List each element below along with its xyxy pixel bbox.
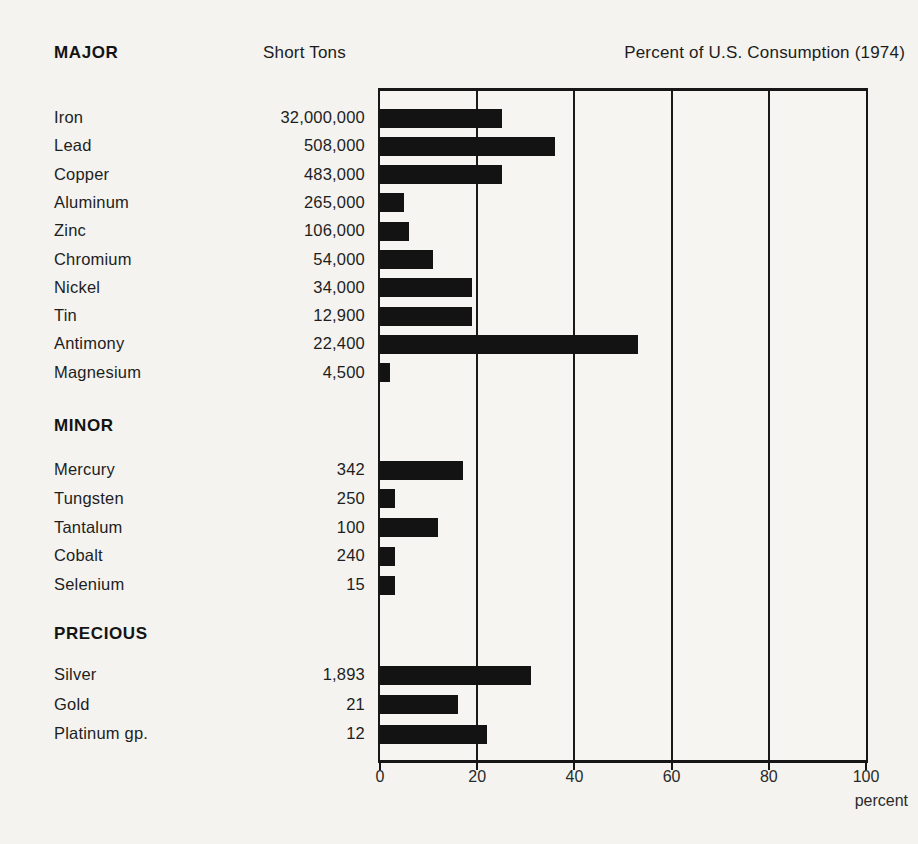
x-tick-label-80: 80 xyxy=(747,768,791,786)
x-tick-mark-40 xyxy=(573,763,575,770)
x-tick-label-20: 20 xyxy=(455,768,499,786)
x-axis-layer: 020406080100 xyxy=(0,0,918,844)
figure: Short Tons Percent of U.S. Consumption (… xyxy=(0,0,918,844)
x-tick-mark-80 xyxy=(768,763,770,770)
x-tick-mark-0 xyxy=(379,763,381,770)
x-axis-unit-label: percent xyxy=(855,792,908,810)
x-tick-label-60: 60 xyxy=(650,768,694,786)
x-tick-label-100: 100 xyxy=(844,768,888,786)
x-tick-mark-100 xyxy=(865,763,867,770)
x-tick-mark-20 xyxy=(476,763,478,770)
x-tick-label-40: 40 xyxy=(552,768,596,786)
x-tick-mark-60 xyxy=(671,763,673,770)
x-tick-label-0: 0 xyxy=(358,768,402,786)
